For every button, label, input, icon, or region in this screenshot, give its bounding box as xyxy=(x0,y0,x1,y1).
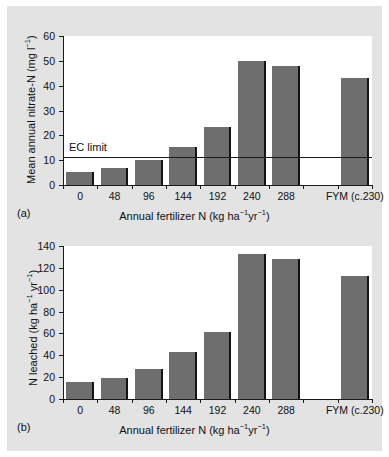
bar xyxy=(66,382,93,399)
y-axis-line-b xyxy=(63,246,64,400)
x-tick-mark xyxy=(269,185,270,189)
panel-label-a: (a) xyxy=(17,207,30,219)
bar xyxy=(135,369,162,399)
bar xyxy=(341,78,368,185)
x-tick-mark xyxy=(63,185,64,189)
x-tick-mark xyxy=(63,399,64,403)
y-axis-line-a xyxy=(63,36,64,186)
bar xyxy=(135,160,162,185)
y-tick-mark xyxy=(59,333,63,334)
x-tick-mark xyxy=(166,399,167,403)
y-tick-mark xyxy=(59,377,63,378)
x-axis-line-a xyxy=(63,185,373,186)
x-tick-mark xyxy=(166,185,167,189)
bar xyxy=(272,259,299,399)
y-tick-mark xyxy=(59,111,63,112)
ec-limit-line xyxy=(63,157,372,158)
y-tick-mark xyxy=(59,86,63,87)
panel-label-b: (b) xyxy=(17,421,30,433)
bar xyxy=(169,352,196,399)
y-tick-mark xyxy=(59,355,63,356)
y-tick-mark xyxy=(59,312,63,313)
x-axis-line-b xyxy=(63,399,373,400)
bar xyxy=(101,378,128,399)
y-tick-mark xyxy=(59,268,63,269)
bar xyxy=(169,147,196,185)
x-tick-mark xyxy=(235,185,236,189)
y-tick-label: 0 xyxy=(29,394,55,404)
bar xyxy=(238,254,265,399)
y-tick-mark xyxy=(59,36,63,37)
x-tick-mark xyxy=(338,399,339,403)
bar xyxy=(272,66,299,185)
x-tick-mark xyxy=(200,399,201,403)
y-tick-mark xyxy=(59,61,63,62)
y-axis-title-b: N leached (kg ha−1 yr−1) xyxy=(27,270,39,386)
y-tick-mark xyxy=(59,246,63,247)
x-tick-mark xyxy=(303,399,304,403)
y-tick-mark xyxy=(59,135,63,136)
chart-panel-b: 020406080100120140 04896144192240288FYM … xyxy=(7,234,382,446)
x-tick-mark xyxy=(269,399,270,403)
ec-limit-label: EC limit xyxy=(69,141,107,153)
x-axis-title-b: Annual fertilizer N (kg ha−1yr−1) xyxy=(7,424,382,436)
bar xyxy=(341,276,368,399)
x-tick-mark xyxy=(303,185,304,189)
bar xyxy=(101,168,128,185)
x-tick-mark xyxy=(338,185,339,189)
y-tick-label: 140 xyxy=(29,241,55,251)
x-tick-mark xyxy=(132,185,133,189)
bar xyxy=(204,332,231,399)
x-tick-mark xyxy=(132,399,133,403)
x-tick-mark xyxy=(235,399,236,403)
y-tick-mark xyxy=(59,290,63,291)
x-tick-label: FYM (c.230) xyxy=(305,405,389,416)
figure-container: 0102030405060 04896144192240288FYM (c.23… xyxy=(7,6,382,451)
y-tick-mark xyxy=(59,160,63,161)
x-tick-mark xyxy=(97,399,98,403)
x-axis-title-a: Annual fertilizer N (kg ha−1yr−1) xyxy=(7,210,382,222)
bar xyxy=(66,172,93,185)
x-tick-mark xyxy=(97,185,98,189)
y-axis-title-a: Mean annual nitrate-N (mg l−1) xyxy=(25,35,37,184)
x-tick-mark xyxy=(372,399,373,403)
bar xyxy=(238,61,265,185)
x-tick-mark xyxy=(200,185,201,189)
x-tick-label: FYM (c.230) xyxy=(305,191,389,202)
x-tick-mark xyxy=(372,185,373,189)
chart-panel-a: 0102030405060 04896144192240288FYM (c.23… xyxy=(7,14,382,229)
